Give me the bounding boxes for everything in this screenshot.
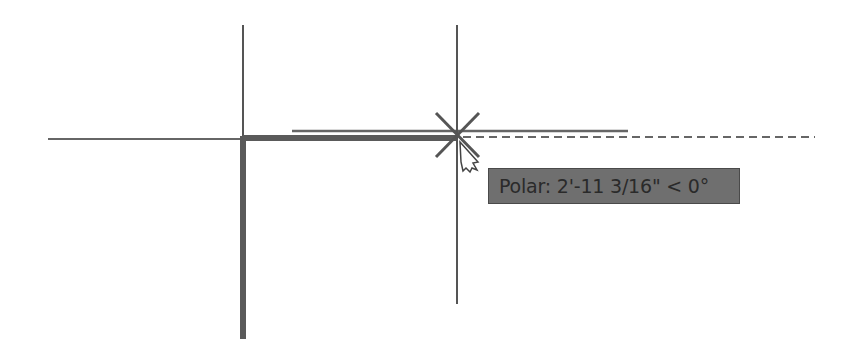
polar-tooltip-label: Polar: 2'-11 3/16" < 0° xyxy=(499,175,709,197)
polar-tooltip: Polar: 2'-11 3/16" < 0° xyxy=(488,168,740,204)
